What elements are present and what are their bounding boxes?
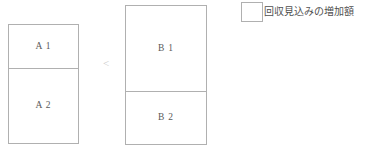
bar-segment-b1-label: B 1 — [158, 44, 174, 54]
comparison-operator: < — [99, 55, 113, 71]
bar-segment-a1-label: A 1 — [36, 42, 52, 52]
bar-segment-b1: B 1 — [125, 5, 207, 92]
bar-segment-b2-label: B 2 — [158, 113, 174, 123]
bar-segment-a2: A 2 — [8, 68, 79, 144]
diagram-canvas: A 1 A 2 < B 1 B 2 回収見込みの増加額 — [0, 0, 368, 151]
empty-square-swatch-icon — [241, 2, 263, 22]
bar-segment-b2: B 2 — [125, 91, 207, 145]
bar-segment-a2-label: A 2 — [36, 101, 52, 111]
bar-segment-a1: A 1 — [8, 24, 79, 69]
bar-group-b: B 1 B 2 — [125, 5, 207, 145]
bar-group-a: A 1 A 2 — [8, 24, 79, 144]
legend: 回収見込みの増加額 — [241, 2, 354, 22]
legend-item-label: 回収見込みの増加額 — [264, 7, 354, 17]
